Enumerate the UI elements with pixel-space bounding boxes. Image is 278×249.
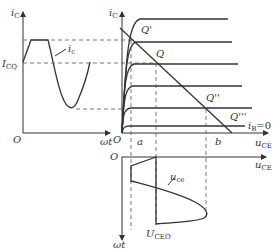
point-q-triple-prime: Q''' xyxy=(230,111,246,122)
ic-curve-1 xyxy=(122,19,228,133)
point-q: Q xyxy=(156,48,164,59)
left-origin-label: O xyxy=(13,134,21,145)
point-q-double-prime: Q'' xyxy=(206,92,220,103)
left-ic-time-plot xyxy=(23,12,155,133)
uceo-label: UCEO xyxy=(146,228,171,241)
ic-curve-2 xyxy=(122,42,232,133)
right-origin-label: O xyxy=(113,134,121,145)
right-y-label: iC xyxy=(109,7,118,20)
icq-label: ICQ xyxy=(1,58,17,71)
load-line xyxy=(120,28,232,133)
ib-zero-label: iB=0 xyxy=(248,120,271,133)
left-x-label: ωt xyxy=(100,136,113,147)
bottom-uce-time-plot xyxy=(122,157,266,240)
ic-curve-label: ic xyxy=(68,43,75,56)
uce-curve-label: uce xyxy=(170,171,185,184)
bottom-y-label: ωt xyxy=(113,239,126,249)
left-y-label: iC xyxy=(11,7,20,20)
ic-waveform xyxy=(23,40,90,108)
right-x-label: uCE xyxy=(255,137,272,150)
bjt-output-characteristic-diagram: iC ICQ ic O ωt iC Q' Q Q'' Q''' iB=0 O a… xyxy=(0,0,278,249)
uce-waveform xyxy=(131,157,207,224)
tick-b-label: b xyxy=(215,136,221,147)
tick-a-label: a xyxy=(137,136,143,147)
bottom-origin-label: O xyxy=(110,151,118,162)
bottom-x-label: uCE xyxy=(255,159,272,172)
point-q-prime: Q' xyxy=(141,24,152,35)
ic-leader-line xyxy=(55,49,66,56)
